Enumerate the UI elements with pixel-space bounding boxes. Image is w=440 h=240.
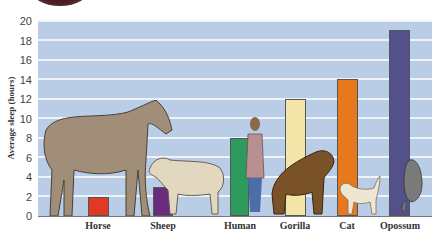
gorilla-illustration: [270, 148, 336, 216]
gridline: [38, 59, 432, 61]
y-tick: 16: [14, 54, 32, 66]
x-axis-line: [38, 216, 432, 217]
y-tick: 0: [14, 210, 32, 222]
y-tick: 6: [14, 152, 32, 164]
y-tick: 8: [14, 132, 32, 144]
x-label-horse: Horse: [85, 220, 111, 231]
y-tick: 2: [14, 191, 32, 203]
x-label-sheep: Sheep: [150, 220, 176, 231]
opossum-illustration: [398, 156, 426, 214]
gridline: [38, 20, 432, 22]
y-tick: 12: [14, 93, 32, 105]
human-illustration: [243, 116, 267, 216]
y-tick: 18: [14, 35, 32, 47]
x-label-opossum: Opossum: [380, 220, 420, 231]
x-label-human: Human: [224, 220, 256, 231]
y-tick: 14: [14, 74, 32, 86]
y-tick: 4: [14, 171, 32, 183]
cat-illustration: [338, 174, 384, 216]
y-tick: 10: [14, 113, 32, 125]
gridline: [38, 78, 432, 80]
sheep-illustration: [148, 154, 228, 216]
y-tick: 20: [14, 15, 32, 27]
gridline: [38, 39, 432, 41]
x-label-gorilla: Gorilla: [280, 220, 311, 231]
y-axis-label: Average sleep (hours): [6, 77, 16, 160]
x-label-cat: Cat: [339, 220, 355, 231]
decorative-blob: [30, 0, 90, 6]
